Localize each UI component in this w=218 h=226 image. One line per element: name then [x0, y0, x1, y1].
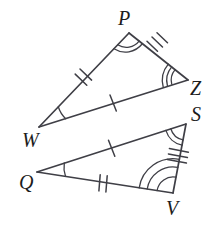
triangle-sqv [37, 124, 186, 193]
vertex-label-v: V [166, 198, 178, 218]
angle-arc-p [114, 41, 142, 52]
geometry-figure: P Z W S Q V [0, 0, 218, 226]
tick-mark-wp [75, 69, 91, 85]
vertex-label-q: Q [19, 172, 33, 192]
segment-pz [129, 33, 188, 80]
vertex-label-w: W [22, 130, 39, 150]
vertex-label-p: P [118, 8, 130, 28]
tick-mark-qv [99, 175, 107, 192]
tick-mark-sv [167, 149, 188, 163]
angle-arc-v [139, 159, 179, 191]
segment-qv [37, 172, 173, 193]
vertex-label-s: S [191, 104, 201, 124]
angle-arc-w [58, 107, 65, 119]
vertex-label-z: Z [190, 78, 201, 98]
angle-arc-s [166, 129, 183, 145]
angle-arc-q [64, 163, 66, 177]
tick-mark-pz [147, 33, 168, 51]
